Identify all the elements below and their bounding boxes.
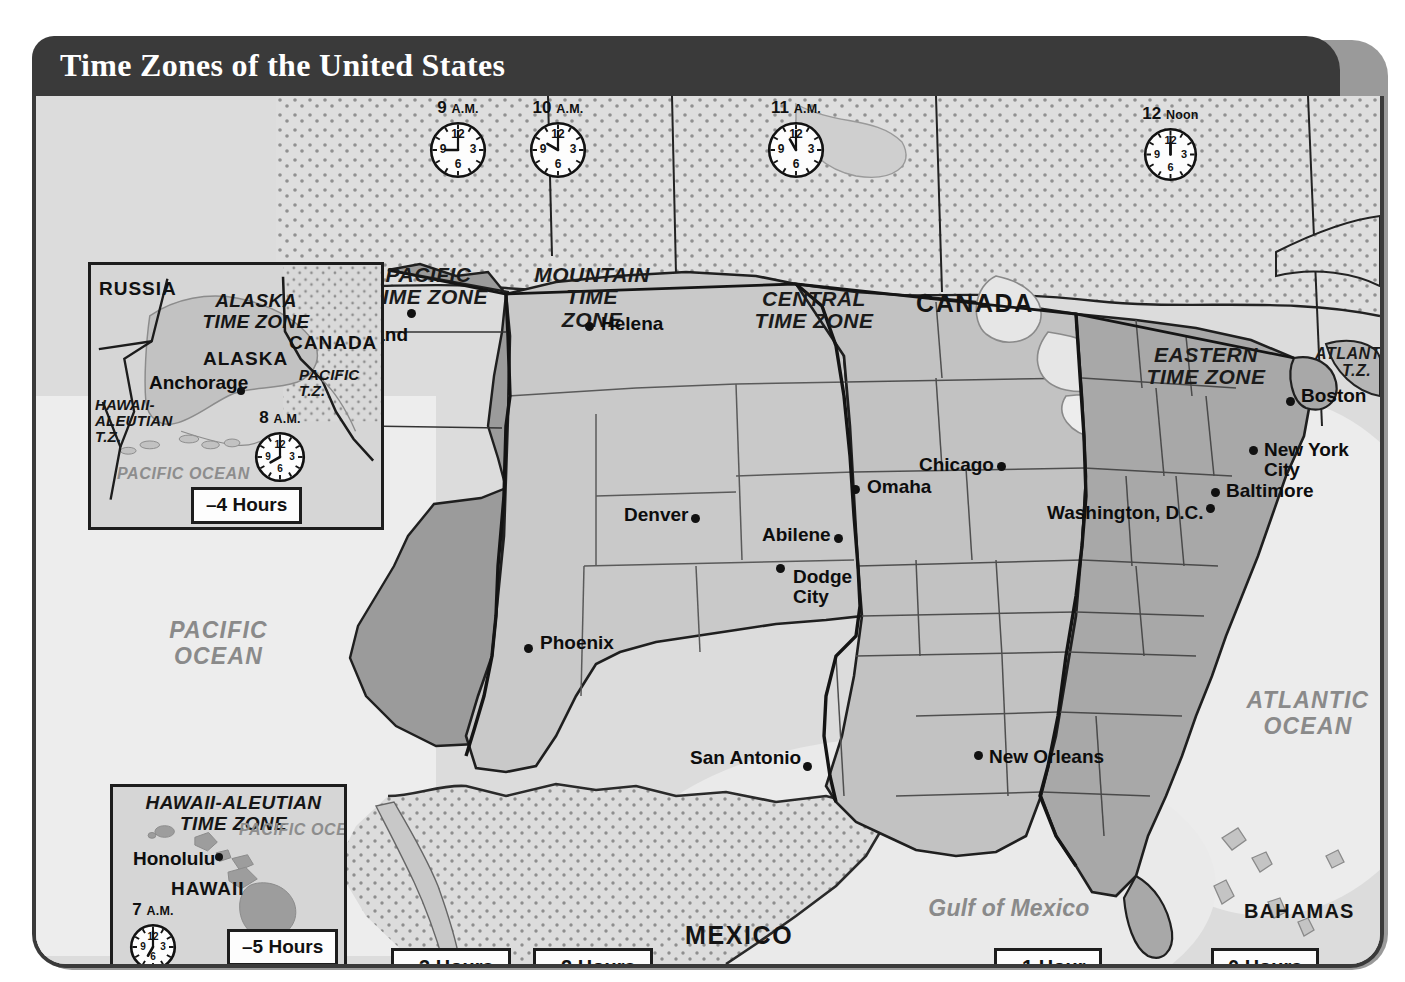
- map-canvas: PACIFIC TIME ZONE MOUNTAIN TIME ZONE CEN…: [32, 96, 1384, 968]
- city-helena-label: Helena: [601, 314, 663, 334]
- city-dodge-city-label: DodgeCity: [793, 567, 852, 607]
- city-washington-dc-label: Washington, D.C.: [1047, 503, 1204, 523]
- hawaii-inset-honolulu-dot: [215, 853, 223, 861]
- alaska-inset-anchorage-dot: [237, 387, 245, 395]
- svg-text:6: 6: [455, 157, 462, 171]
- alaska-inset-hourbox: –4 Hours: [191, 487, 302, 524]
- svg-text:6: 6: [555, 157, 562, 171]
- svg-text:3: 3: [289, 451, 295, 462]
- clock-face: 12369: [767, 121, 825, 179]
- country-label-canada: CANADA: [916, 290, 1034, 317]
- hourbox-minus-1: –1 Hour: [994, 948, 1102, 968]
- hawaii-inset-state-label: HAWAII: [171, 879, 245, 900]
- svg-text:6: 6: [793, 157, 800, 171]
- clock-eastern: 12 Noon 12369: [1143, 127, 1198, 182]
- clock-face: 12369: [254, 431, 306, 483]
- clock-mountain: 10 A.M. 12369: [529, 121, 587, 179]
- hawaii-inset-ocean-label: PACIFIC OCEAN: [239, 821, 347, 838]
- gulf-of-mexico-label: Gulf of Mexico: [894, 896, 1124, 922]
- city-dodge-city-dot: [776, 564, 785, 573]
- alaska-inset-country-russia: RUSSIA: [99, 279, 177, 300]
- city-san-antonio-label: San Antonio: [690, 748, 801, 768]
- alaska-inset-state-label: ALASKA: [203, 349, 288, 370]
- city-denver-dot: [691, 514, 700, 523]
- hourbox-zero: 0 Hours: [1211, 948, 1319, 968]
- alaska-inset-country-canada: CANADA: [289, 333, 377, 354]
- zone-label-atlantic: ATLANTIC T.Z.: [1304, 346, 1384, 380]
- city-chicago-dot: [997, 462, 1006, 471]
- clock-pacific: 9 A.M. 12369: [429, 121, 487, 179]
- city-phoenix-dot: [524, 644, 533, 653]
- svg-text:3: 3: [160, 941, 166, 952]
- svg-text:9: 9: [1154, 148, 1160, 160]
- hawaii-inset-clock-time: 7 A.M.: [132, 900, 173, 920]
- svg-text:9: 9: [265, 451, 271, 462]
- alaska-inset: ALASKA TIME ZONE ALASKA CANADA RUSSIA PA…: [88, 262, 384, 530]
- clock-central-time: 11 A.M.: [771, 98, 821, 118]
- clock-face: 12369: [1143, 127, 1198, 182]
- city-new-orleans-dot: [974, 751, 983, 760]
- city-helena-dot: [585, 322, 594, 331]
- city-new-orleans-label: New Orleans: [989, 747, 1104, 767]
- svg-text:3: 3: [570, 142, 577, 156]
- alaska-inset-ocean-label: PACIFIC OCEAN: [117, 465, 250, 482]
- city-san-antonio-dot: [803, 762, 812, 771]
- country-label-mexico: MEXICO: [685, 922, 793, 949]
- clock-face: 12369: [429, 121, 487, 179]
- hourbox-minus-2: –2 Hours: [533, 948, 653, 968]
- ocean-label-pacific: PACIFIC OCEAN: [136, 618, 301, 670]
- clock-central: 11 A.M. 12369: [767, 121, 825, 179]
- clock-face: 12369: [129, 923, 177, 968]
- city-omaha-dot: [851, 485, 860, 494]
- ocean-label-atlantic: ATLANTIC OCEAN: [1218, 688, 1384, 740]
- alaska-inset-clock-time: 8 A.M.: [259, 408, 300, 428]
- city-abilene-label: Abilene: [762, 525, 831, 545]
- svg-text:3: 3: [470, 142, 477, 156]
- clock-pacific-time: 9 A.M.: [437, 98, 478, 118]
- time-zone-map-poster: Time Zones of the United States: [0, 0, 1405, 982]
- alaska-inset-hawaii-aleutian-tz: HAWAII- ALEUTIAN T.Z.: [95, 397, 172, 446]
- alaska-inset-pacific-tz: PACIFIC T.Z.: [299, 367, 359, 399]
- city-omaha-label: Omaha: [867, 477, 931, 497]
- svg-text:6: 6: [277, 463, 283, 474]
- svg-text:3: 3: [1181, 148, 1187, 160]
- hawaii-inset-city-honolulu: Honolulu: [133, 849, 215, 870]
- clock-eastern-time: 12 Noon: [1142, 104, 1198, 124]
- alaska-inset-zone-label: ALASKA TIME ZONE: [181, 291, 331, 332]
- hawaii-inset: HAWAII-ALEUTIAN TIME ZONE PACIFIC OCEAN …: [110, 784, 347, 968]
- city-chicago-label: Chicago: [919, 455, 994, 475]
- city-new-york-city-dot: [1249, 446, 1258, 455]
- svg-text:9: 9: [540, 142, 547, 156]
- city-abilene-dot: [834, 534, 843, 543]
- svg-text:3: 3: [808, 142, 815, 156]
- page-title: Time Zones of the United States: [60, 47, 505, 84]
- hawaii-inset-clock: 7 A.M. 12369: [129, 923, 177, 968]
- city-baltimore-label: Baltimore: [1226, 481, 1314, 501]
- city-new-york-city-label: New YorkCity: [1264, 440, 1349, 480]
- svg-text:9: 9: [140, 941, 146, 952]
- city-baltimore-dot: [1211, 488, 1220, 497]
- city-boston-dot: [1286, 397, 1295, 406]
- zone-label-central: CENTRAL TIME ZONE: [728, 288, 900, 333]
- zone-label-eastern: EASTERN TIME ZONE: [1121, 344, 1291, 389]
- city-washington-dc-dot: [1206, 504, 1215, 513]
- clock-face: 12369: [529, 121, 587, 179]
- city-portland-dot: [407, 309, 416, 318]
- city-denver-label: Denver: [624, 505, 688, 525]
- clock-mountain-time: 10 A.M.: [533, 98, 584, 118]
- hawaii-inset-hourbox: –5 Hours: [227, 929, 338, 966]
- alaska-inset-city-anchorage: Anchorage: [149, 373, 248, 394]
- hourbox-minus-3: –3 Hours: [391, 948, 511, 968]
- alaska-inset-clock: 8 A.M. 12369: [254, 431, 306, 483]
- city-boston-label: Boston: [1301, 386, 1366, 406]
- city-phoenix-label: Phoenix: [540, 633, 614, 653]
- svg-text:6: 6: [1167, 161, 1173, 173]
- svg-text:9: 9: [778, 142, 785, 156]
- country-label-bahamas: BAHAMAS: [1244, 901, 1355, 922]
